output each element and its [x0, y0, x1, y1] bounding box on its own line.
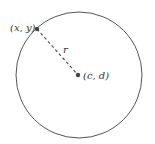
point-label: (x, y): [10, 22, 36, 33]
radius-label: r: [63, 44, 69, 55]
radius-line: [37, 29, 78, 75]
circle-diagram: (x, y) (c, d) r: [0, 0, 155, 144]
diagram-svg: (x, y) (c, d) r: [0, 0, 155, 144]
point-dot: [35, 27, 39, 31]
center-label: (c, d): [83, 70, 109, 81]
center-dot: [76, 73, 80, 77]
